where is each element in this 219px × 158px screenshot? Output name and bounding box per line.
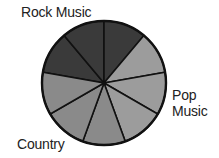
label-country: Country (17, 137, 65, 152)
label-rock-music: Rock Music (21, 5, 91, 20)
pie-chart (0, 0, 219, 158)
label-pop-music-line1: Pop (172, 88, 196, 103)
label-pop-music-line2: Music (172, 104, 208, 119)
